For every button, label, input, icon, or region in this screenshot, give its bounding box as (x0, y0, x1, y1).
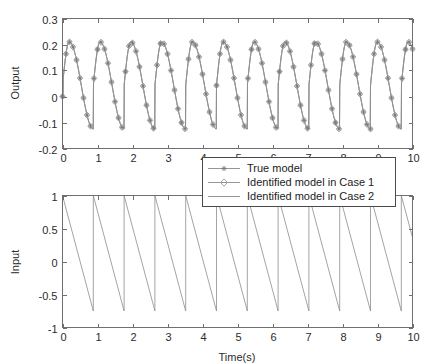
tick-label: 7 (305, 331, 311, 343)
tick-label: 0.3 (42, 14, 57, 26)
tick-label: 5 (235, 331, 241, 343)
tick-label: -0.5 (39, 290, 58, 302)
tick-label: 10 (407, 331, 419, 343)
output-plot-curves (60, 39, 415, 132)
tick-label: 0 (51, 92, 57, 104)
asterisk-icon (221, 166, 226, 171)
tick-label: 1 (51, 191, 57, 203)
input-y-ticks (63, 197, 413, 329)
input-x-ticks (64, 196, 414, 328)
curve-identified-case1 (63, 42, 413, 129)
curve-sawtooth-input (63, 196, 413, 312)
output-plot: 012345678910 -0.2-0.100.10.20.3 Output (9, 14, 420, 164)
tick-label: 9 (375, 331, 381, 343)
output-y-ticklabels: -0.2-0.100.10.20.3 (39, 14, 58, 156)
tick-label: 3 (165, 152, 171, 164)
tick-label: 0 (51, 257, 57, 269)
input-axis-label: Input (9, 250, 21, 274)
tick-label: 0.5 (42, 224, 57, 236)
legend[interactable]: True model Identified model in Case 1 Id… (203, 158, 396, 207)
legend-label-case2: Identified model in Case 2 (247, 190, 374, 202)
curve-identified-case2 (63, 42, 413, 129)
input-plot: 012345678910 -1-0.500.51 Input Time(s) (9, 191, 420, 363)
output-x-ticks (64, 19, 414, 149)
tick-label: -1 (48, 323, 58, 335)
tick-label: 1 (95, 331, 101, 343)
tick-label: 3 (165, 331, 171, 343)
tick-label: -0.1 (39, 118, 58, 130)
tick-label: 8 (340, 331, 346, 343)
tick-label: 0 (60, 152, 66, 164)
tick-label: 0.2 (42, 40, 57, 52)
tick-label: 6 (270, 331, 276, 343)
curve-true-model (63, 42, 413, 129)
matlab-figure: 012345678910 -0.2-0.100.10.20.3 Output 0… (0, 0, 432, 363)
output-markers (60, 39, 415, 132)
tick-label: 2 (130, 331, 136, 343)
tick-label: 2 (130, 152, 136, 164)
legend-label-case1: Identified model in Case 1 (247, 176, 374, 188)
output-axes-frame (63, 19, 413, 149)
input-y-ticklabels: -1-0.500.51 (39, 191, 58, 335)
output-y-ticks (63, 20, 413, 150)
figure-canvas: 012345678910 -0.2-0.100.10.20.3 Output 0… (0, 0, 432, 363)
tick-label: 0 (60, 331, 66, 343)
tick-label: 1 (95, 152, 101, 164)
tick-label: 0.1 (42, 65, 57, 77)
tick-label: 10 (407, 152, 419, 164)
tick-label: 4 (200, 331, 206, 343)
input-axes-frame (63, 196, 413, 328)
legend-label-true-model: True model (247, 162, 302, 174)
input-x-ticklabels: 012345678910 (60, 331, 419, 343)
time-axis-label: Time(s) (219, 351, 256, 363)
tick-label: -0.2 (39, 144, 58, 156)
output-axis-label: Output (9, 66, 21, 99)
